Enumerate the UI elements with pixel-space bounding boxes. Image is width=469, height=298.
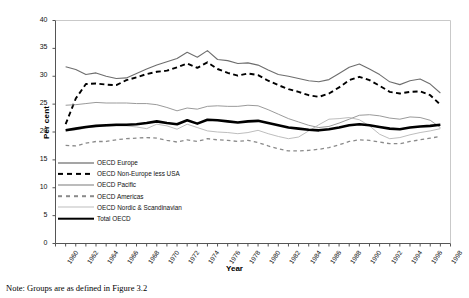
legend-item[interactable]: OECD Americas <box>58 191 238 202</box>
legend-swatch-icon <box>58 203 94 212</box>
series-layer <box>66 51 441 151</box>
legend-swatch-icon <box>58 192 94 201</box>
legend-item[interactable]: OECD Europe <box>58 157 238 168</box>
legend-item[interactable]: OECD Non-Europe less USA <box>58 168 238 179</box>
legend-label: OECD Europe <box>97 158 138 167</box>
series-line <box>66 51 441 93</box>
legend-item[interactable]: OECD Pacific <box>58 179 238 190</box>
legend-swatch-icon <box>58 180 94 189</box>
y-axis-title: Per cent <box>42 63 51 183</box>
legend-label: OECD Nordic & Scandinavian <box>97 203 182 212</box>
legend-swatch-icon <box>58 214 94 223</box>
legend-label: OECD Pacific <box>97 180 136 189</box>
figure-container: 0510152025303540 19601962196419661968197… <box>0 0 469 298</box>
series-line <box>66 62 441 124</box>
legend-label: Total OECD <box>97 214 131 223</box>
chart-legend: OECD EuropeOECD Non-Europe less USAOECD … <box>58 157 238 224</box>
series-line <box>66 136 441 150</box>
legend-label: OECD Non-Europe less USA <box>97 169 180 178</box>
legend-swatch-icon <box>58 169 94 178</box>
legend-swatch-icon <box>58 158 94 167</box>
y-tick-label: 35 <box>22 43 48 50</box>
figure-note: Note: Groups are as defined in Figure 3.… <box>6 283 147 293</box>
y-tick-label: 0 <box>22 239 48 246</box>
legend-item[interactable]: OECD Nordic & Scandinavian <box>58 202 238 213</box>
y-tick-label: 40 <box>22 16 48 23</box>
y-tick-label: 10 <box>22 183 48 190</box>
chart-plot-area: 0510152025303540 19601962196419661968197… <box>0 0 469 298</box>
legend-label: OECD Americas <box>97 192 144 201</box>
legend-item[interactable]: Total OECD <box>58 213 238 224</box>
series-line <box>66 120 441 131</box>
x-axis-title: Year <box>0 264 469 273</box>
y-tick-label: 5 <box>22 211 48 218</box>
